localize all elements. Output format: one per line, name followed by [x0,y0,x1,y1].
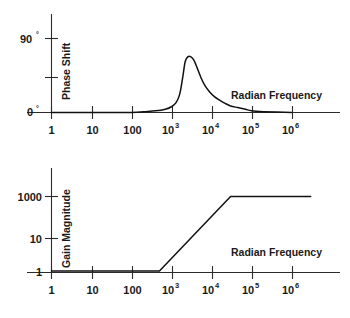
phase-y-label-90: 90 [20,33,32,45]
gain-x-label-1e5: 10 [242,284,254,296]
phase-x-label-1e6-exponent: 6 [295,121,299,130]
gain-y-axis-title: Gain Magnitude [60,189,72,268]
phase-y-axis-title: Phase Shift [60,42,72,100]
bode-plot-figure: 90 ° 0 ° Phase Shift 1 10 100 10 3 10 4 … [0,0,350,318]
gain-x-label-1e5-exponent: 5 [255,281,259,290]
phase-x-label-1e4: 10 [202,124,214,136]
phase-x-label-10: 10 [86,124,98,136]
gain-y-label-10: 10 [30,233,42,245]
phase-y-label-0-degree-symbol: ° [36,105,39,112]
phase-x-label-1: 1 [48,124,54,136]
gain-x-label-10: 10 [86,284,98,296]
gain-magnitude-curve [52,197,311,272]
gain-x-label-1e4: 10 [202,284,214,296]
phase-shift-curve [52,56,292,112]
phase-x-label-1e4-exponent: 4 [215,121,220,130]
gain-x-label-1e4-exponent: 4 [215,281,220,290]
gain-y-label-1: 1 [36,266,42,278]
phase-y-label-0: 0 [27,106,33,118]
gain-y-label-1000: 1000 [18,191,42,203]
phase-x-label-1e3-exponent: 3 [175,121,179,130]
phase-x-label-100: 100 [123,124,141,136]
phase-x-axis-title: Radian Frequency [231,89,322,101]
phase-y-label-90-degree-symbol: ° [36,31,39,38]
gain-x-label-1e6-exponent: 6 [295,281,299,290]
phase-x-label-1e6: 10 [282,124,294,136]
gain-magnitude-chart: 1000 10 1 Gain Magnitude 1 10 100 10 3 1… [18,168,340,296]
phase-shift-chart: 90 ° 0 ° Phase Shift 1 10 100 10 3 10 4 … [20,14,340,136]
phase-x-label-1e3: 10 [162,124,174,136]
gain-x-axis-title: Radian Frequency [231,246,322,258]
phase-x-label-1e5: 10 [242,124,254,136]
gain-x-label-1: 1 [48,284,54,296]
gain-x-label-100: 100 [123,284,141,296]
phase-x-label-1e5-exponent: 5 [255,121,259,130]
gain-x-label-1e3: 10 [162,284,174,296]
gain-x-label-1e6: 10 [282,284,294,296]
gain-x-label-1e3-exponent: 3 [175,281,179,290]
